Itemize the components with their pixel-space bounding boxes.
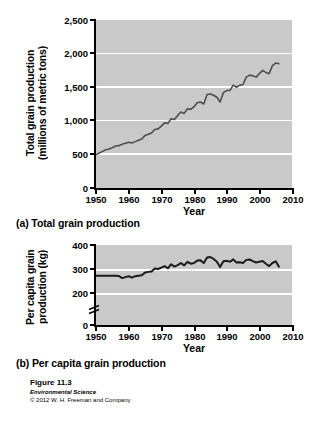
chart-a-ytick-1000: [90, 119, 94, 121]
chart-b-xtick-label-1960: 1960: [118, 331, 139, 342]
chart-a-ytick-label-0: 0: [52, 183, 88, 194]
chart-a-xtick-label-1970: 1970: [151, 194, 172, 205]
chart-b-ytick-label-200: 200: [52, 288, 88, 299]
chart-b-ytick-300: [90, 268, 94, 270]
chart-a-xtick-label-1950: 1950: [85, 194, 106, 205]
chart-a-y-axis-line: [94, 19, 96, 189]
panel-a-caption: (a) Total grain production: [16, 217, 140, 229]
chart-b-series-line: [96, 245, 292, 325]
chart-a-xtick-label-1960: 1960: [118, 194, 139, 205]
chart-b-plot-area: [96, 245, 292, 325]
figure-copyright: © 2012 W. H. Freeman and Company: [30, 396, 130, 404]
chart-a-ytick-500: [90, 153, 94, 155]
chart-a-ytick-label-2000: 2,000: [52, 48, 88, 59]
panel-b-caption: (b) Per capita grain production: [16, 357, 166, 369]
chart-b-ytick-400: [90, 244, 94, 246]
chart-a-ytick-2000: [90, 52, 94, 54]
chart-b-xtick-label-1990: 1990: [216, 331, 237, 342]
chart-a-ytick-label-500: 500: [52, 149, 88, 160]
chart-b-ytick-label-0: 0: [52, 320, 88, 331]
figure-footer: Figure 11.3 Environmental Science © 2012…: [30, 378, 130, 404]
figure-book-title: Environmental Science: [30, 388, 130, 396]
chart-per-capita-grain-production: Per capita grain production (kg) 400 300…: [0, 232, 316, 372]
chart-a-plot-area: [96, 20, 292, 188]
chart-a-ytick-label-1500: 1,500: [52, 82, 88, 93]
chart-b-axis-break-icon: [88, 302, 102, 316]
chart-a-xtick-label-1990: 1990: [216, 194, 237, 205]
chart-a-xtick-label-2010: 2010: [282, 194, 303, 205]
chart-a-ytick-0: [90, 187, 94, 189]
chart-b-x-axis-title: Year: [96, 342, 292, 354]
chart-a-xtick-label-2000: 2000: [249, 194, 270, 205]
chart-a-ytick-label-1000: 1,000: [52, 115, 88, 126]
figure-number: Figure 11.3: [30, 378, 130, 388]
chart-a-ytick-2500: [90, 19, 94, 21]
chart-b-xtick-label-2000: 2000: [249, 331, 270, 342]
chart-a-xtick-label-1980: 1980: [184, 194, 205, 205]
chart-b-y-axis-title: Per capita grain production (kg): [24, 232, 50, 342]
chart-b-ytick-label-400: 400: [52, 240, 88, 251]
chart-b-xtick-label-1950: 1950: [85, 331, 106, 342]
chart-total-grain-production: Total grain production (millions of metr…: [0, 0, 316, 215]
figure-11-3: Total grain production (millions of metr…: [0, 0, 316, 432]
chart-a-x-axis-title: Year: [96, 205, 292, 217]
chart-a-ytick-label-2500: 2,500: [52, 15, 88, 26]
chart-b-ytick-label-300: 300: [52, 264, 88, 275]
chart-a-ytick-1500: [90, 86, 94, 88]
chart-b-xtick-label-1970: 1970: [151, 331, 172, 342]
chart-b-ytick-200: [90, 292, 94, 294]
chart-a-series-line: [96, 20, 292, 188]
chart-b-xtick-label-1980: 1980: [184, 331, 205, 342]
chart-b-ytick-0: [90, 324, 94, 326]
chart-b-xtick-label-2010: 2010: [282, 331, 303, 342]
chart-a-y-axis-title: Total grain production (millions of metr…: [24, 14, 50, 192]
